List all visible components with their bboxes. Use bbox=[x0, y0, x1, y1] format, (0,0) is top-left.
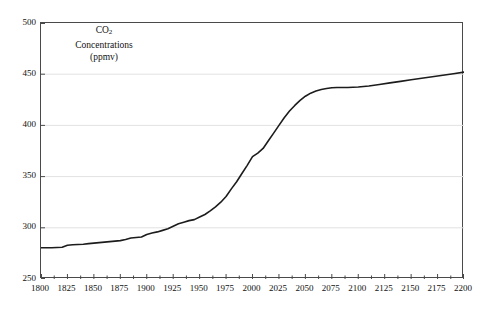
co2-concentration-chart: 250300350400450500 CO2 Concentrations (p… bbox=[0, 0, 483, 315]
x-axis-labels: 1800182518501875190019251950197520002025… bbox=[0, 0, 483, 315]
x-axis-tick-label: 2200 bbox=[445, 284, 481, 293]
